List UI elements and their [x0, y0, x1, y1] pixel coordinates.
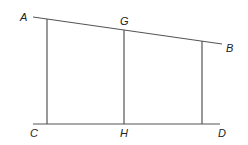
label-d: D — [218, 127, 226, 139]
label-c: C — [30, 127, 38, 139]
label-a: A — [19, 11, 27, 23]
label-g: G — [120, 15, 129, 27]
label-h: H — [120, 127, 128, 139]
label-b: B — [226, 42, 233, 54]
geometry-diagram: A B G C H D — [0, 0, 248, 145]
